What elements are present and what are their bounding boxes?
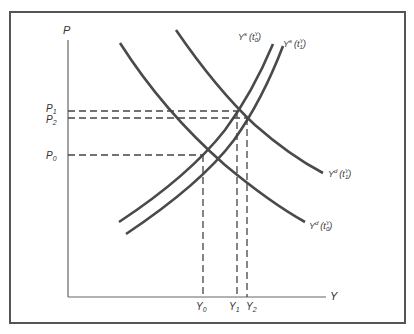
price-axis-label: P <box>63 24 71 36</box>
output-axis-label: Y <box>330 290 338 302</box>
supply-curve-1-label: Ys(tY1) <box>283 38 306 50</box>
y1-label: Y1 <box>229 301 240 313</box>
supply-curve-0-label: Ys(tY0) <box>238 31 261 43</box>
supply-curve-0 <box>119 44 273 222</box>
p2-label: P2 <box>46 114 57 126</box>
supply-demand-diagram: P Y P1 P2 P0 Y0 Y1 Y2 Ys(tY0) Ys(tY1) Yd… <box>0 0 414 334</box>
p0-label: P0 <box>46 150 57 162</box>
demand-curve-0 <box>120 43 305 222</box>
y0-label: Y0 <box>196 301 207 313</box>
y2-label: Y2 <box>246 301 257 313</box>
demand-curve-0-label: Yd(tY0) <box>309 220 332 232</box>
demand-curve-1 <box>176 30 323 173</box>
demand-curve-1-label: Yd(tY1) <box>328 168 351 180</box>
